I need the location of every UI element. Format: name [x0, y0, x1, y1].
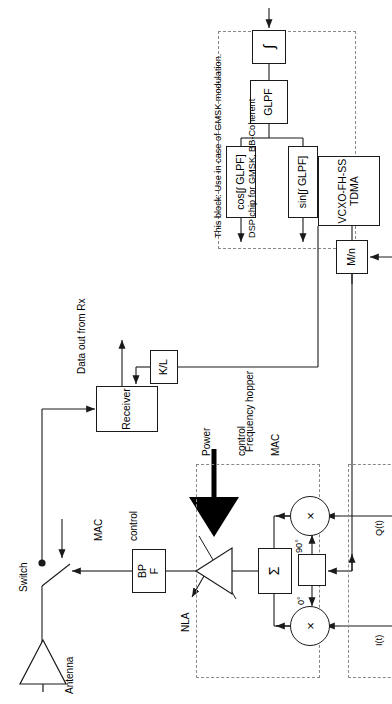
figure-page: Antenna Switch BP F MAC control NLA Powe…	[0, 0, 392, 704]
diagram-canvas: Antenna Switch BP F MAC control NLA Powe…	[0, 0, 392, 704]
gmsk-note-line1: This block: Use in case of GMSK modulati…	[213, 54, 224, 238]
gmsk-note-label: This block: Use in case of GMSK modulati…	[192, 54, 279, 238]
gmsk-note-line2: DSP chip for GMSK, BB-Coherent	[247, 54, 258, 238]
